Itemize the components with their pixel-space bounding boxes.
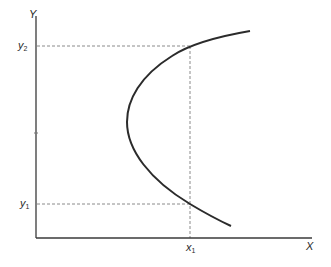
x1-label: x1: [186, 242, 195, 254]
y1-label: y1: [20, 198, 29, 210]
parabola-curve: [127, 31, 250, 226]
y1-label-sub: 1: [26, 203, 30, 210]
y2-label: y2: [18, 40, 27, 52]
y2-label-sub: 2: [24, 45, 28, 52]
diagram-canvas: [0, 0, 331, 267]
x1-label-sub: 1: [192, 247, 196, 254]
y-axis-label: Y: [29, 9, 36, 20]
x-axis-label: X: [306, 241, 313, 252]
